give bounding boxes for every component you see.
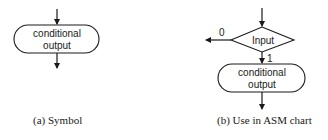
decision-label: Input (252, 35, 274, 46)
box-line2: output (248, 79, 276, 90)
panel-a-symbol: conditional output (a) Symbol (14, 9, 99, 127)
asm-diagram: conditional output (a) Symbol Input 0 1 … (0, 0, 328, 140)
caption-a: (a) Symbol (33, 114, 82, 127)
panel-b-asm-chart: Input 0 1 conditional output (b) Use in … (206, 8, 312, 127)
box-line1: conditional (33, 28, 81, 39)
caption-b: (b) Use in ASM chart (217, 114, 312, 127)
box-line1: conditional (238, 67, 286, 78)
true-label: 1 (267, 53, 273, 64)
box-line2: output (43, 40, 71, 51)
false-label: 0 (219, 27, 225, 38)
